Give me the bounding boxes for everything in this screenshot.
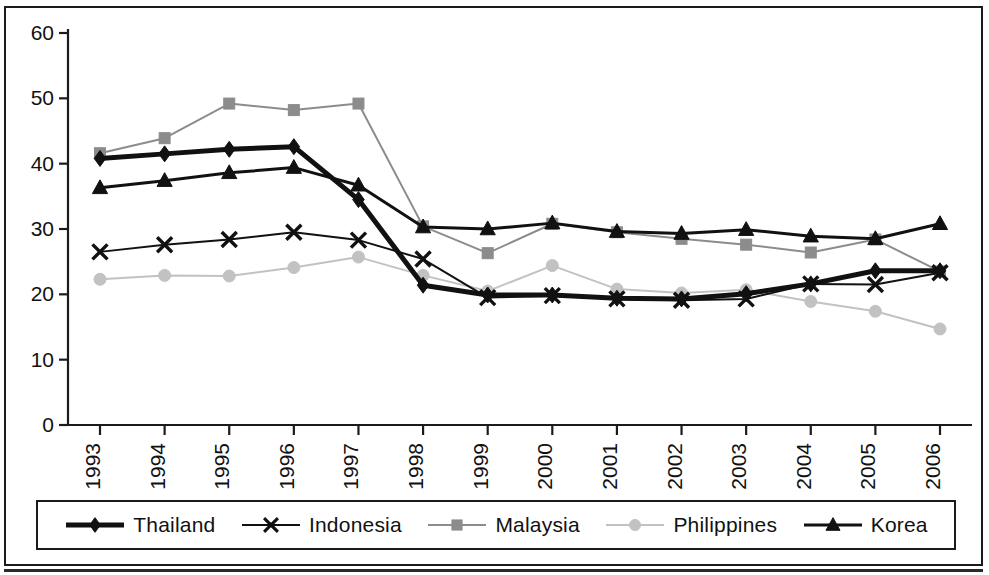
- chart-series-layer: [92, 98, 947, 335]
- legend-marker-triangle-icon: [802, 513, 864, 537]
- x-axis-tick-label: 2006: [921, 443, 944, 490]
- legend-marker-x-icon: [240, 513, 302, 537]
- legend-marker-circle-icon: [604, 513, 666, 537]
- legend-label: Philippines: [673, 513, 777, 537]
- x-axis-tick-label: 2000: [533, 443, 556, 490]
- x-axis-tick-label: 2003: [727, 443, 750, 490]
- y-axis-tick-label: 0: [42, 413, 54, 436]
- legend-item-korea[interactable]: Korea: [802, 513, 928, 537]
- y-axis-tick-label: 60: [31, 21, 54, 44]
- legend-item-indonesia[interactable]: Indonesia: [240, 513, 402, 537]
- y-axis-tick-label: 40: [31, 152, 54, 175]
- chart-axes: [59, 29, 972, 435]
- series-korea: [92, 160, 947, 245]
- x-axis-tick-label: 2001: [598, 443, 621, 490]
- chart-legend: ThailandIndonesiaMalaysiaPhilippinesKore…: [36, 500, 956, 550]
- y-axis-tick-label: 30: [31, 217, 54, 240]
- x-axis-tick-label: 1996: [275, 443, 298, 490]
- figure-container: 0102030405060199319941995199619971998199…: [0, 0, 989, 575]
- x-axis-tick-label: 2002: [663, 443, 686, 490]
- legend-label: Korea: [871, 513, 928, 537]
- legend-item-philippines[interactable]: Philippines: [604, 513, 777, 537]
- x-axis-tick-label: 1999: [469, 443, 492, 490]
- legend-item-malaysia[interactable]: Malaysia: [426, 513, 579, 537]
- x-axis-tick-label: 2004: [792, 443, 815, 490]
- x-axis-tick-label: 1994: [146, 443, 169, 490]
- y-axis-tick-label: 50: [31, 86, 54, 109]
- x-axis-tick-label: 2005: [856, 443, 879, 490]
- legend-marker-diamond-icon: [64, 513, 126, 537]
- y-axis-tick-label: 20: [31, 282, 54, 305]
- x-axis-tick-label: 1995: [210, 443, 233, 490]
- x-axis-tick-label: 1998: [404, 443, 427, 490]
- series-thailand: [94, 139, 946, 307]
- y-axis-tick-label: 10: [31, 348, 54, 371]
- legend-label: Indonesia: [309, 513, 402, 537]
- line-chart: 0102030405060199319941995199619971998199…: [0, 0, 989, 575]
- legend-marker-square-icon: [426, 513, 488, 537]
- x-axis-tick-label: 1997: [339, 443, 362, 490]
- series-malaysia: [95, 98, 946, 277]
- legend-item-thailand[interactable]: Thailand: [64, 513, 215, 537]
- legend-label: Thailand: [133, 513, 215, 537]
- x-axis-tick-label: 1993: [81, 443, 104, 490]
- legend-label: Malaysia: [495, 513, 579, 537]
